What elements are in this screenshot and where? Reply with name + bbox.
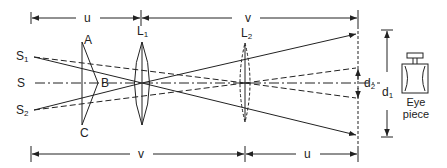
eyepiece-icon: [402, 53, 428, 93]
label-d1: d1: [382, 86, 393, 100]
label-eyepiece: Eye piece: [400, 97, 432, 120]
label-c: C: [80, 127, 89, 139]
label-a: A: [84, 34, 92, 46]
top-dimension-line: [31, 10, 358, 26]
biprism-diagram: [0, 0, 447, 168]
label-b: B: [101, 77, 109, 89]
label-top-u: u: [84, 12, 91, 24]
label-s2: S2: [16, 104, 28, 118]
label-l2: L2: [241, 27, 252, 41]
d1-dimension: [381, 30, 393, 137]
label-s: S: [17, 77, 25, 89]
label-top-v: v: [245, 12, 251, 24]
label-bottom-v: v: [138, 148, 144, 160]
label-d2: d2: [364, 77, 375, 91]
label-l1: L1: [137, 25, 148, 39]
label-bottom-u: u: [304, 148, 311, 160]
label-s1: S1: [16, 50, 28, 64]
